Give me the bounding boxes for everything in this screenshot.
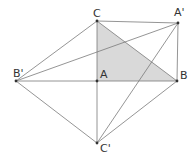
geometry-diagram: C A' B' A B C' (0, 0, 195, 158)
point-B (176, 80, 179, 83)
label-A: A (100, 68, 108, 81)
point-A (96, 80, 99, 83)
label-C: C (93, 7, 101, 20)
point-A-prime (177, 22, 180, 25)
label-B: B (180, 69, 188, 82)
segment-B'-C' (16, 81, 97, 143)
segment-B'-C (16, 21, 97, 81)
label-B-prime: B' (13, 67, 24, 80)
point-B-prime (15, 80, 18, 83)
segment-C-A' (97, 21, 178, 23)
point-C-prime (96, 142, 99, 145)
point-C (96, 20, 99, 23)
label-C-prime: C' (100, 142, 111, 155)
segment-A'-B (177, 23, 178, 81)
segment-C'-B (97, 81, 177, 143)
label-A-prime: A' (174, 6, 185, 19)
